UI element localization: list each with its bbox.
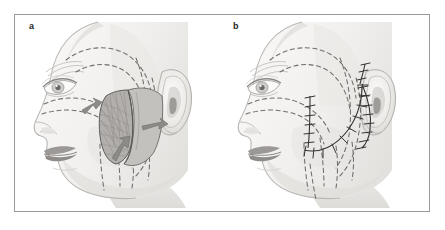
panel-a-illustration bbox=[20, 18, 219, 208]
panel-a-label: a bbox=[29, 22, 34, 31]
panel-b-label: b bbox=[233, 22, 239, 31]
panel-a: a bbox=[20, 18, 219, 208]
panel-b: b bbox=[224, 18, 423, 208]
figure-frame: a bbox=[14, 14, 430, 212]
panel-b-illustration bbox=[224, 18, 423, 208]
